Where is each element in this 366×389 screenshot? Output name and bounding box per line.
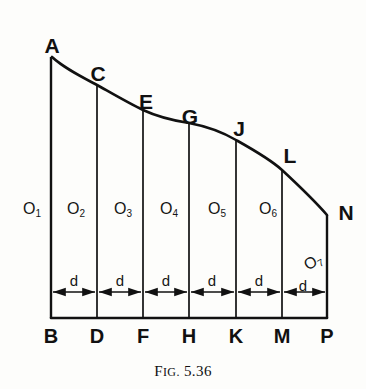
caption-smallcaps: IG.	[163, 365, 180, 379]
vertex-label-e: E	[139, 91, 153, 112]
base-label-k: K	[229, 326, 243, 346]
base-label-d: D	[90, 326, 104, 346]
ordinate-label-o5: O5	[208, 201, 226, 217]
base-label-h: H	[182, 326, 196, 346]
vertex-label-n: N	[338, 202, 353, 223]
base-label-b: B	[44, 326, 58, 346]
ordinate-label-o2: O2	[67, 201, 85, 217]
spacing-label-5: d	[255, 273, 263, 288]
spacing-label-4: d	[208, 273, 216, 288]
base-label-f: F	[137, 326, 149, 346]
spacing-label-6: d	[299, 278, 307, 293]
base-label-p: P	[320, 326, 333, 346]
figure-caption: FIG. 5.36	[154, 363, 212, 380]
vertex-label-l: L	[284, 145, 297, 166]
caption-number: 5.36	[184, 363, 212, 379]
caption-prefix: F	[154, 363, 163, 379]
vertex-label-c: C	[90, 63, 105, 84]
spacing-label-1: d	[70, 273, 78, 288]
ordinate-label-o3: O3	[114, 201, 132, 217]
spacing-label-3: d	[162, 273, 170, 288]
ordinate-label-o6: O6	[259, 201, 277, 217]
ordinate-label-o1: O1	[23, 201, 41, 217]
spacing-label-2: d	[116, 273, 124, 288]
base-label-m: M	[274, 326, 291, 346]
figure-container: A C E G J L N O1 O2 O3 O4 O5 O6 O7 d d d…	[0, 0, 366, 389]
ordinate-label-o4: O4	[160, 201, 178, 217]
vertex-label-j: J	[233, 118, 245, 139]
vertex-label-a: A	[44, 35, 59, 56]
vertex-label-g: G	[182, 106, 198, 127]
